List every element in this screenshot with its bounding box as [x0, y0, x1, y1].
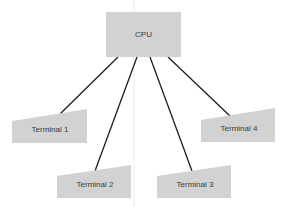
terminal-1-node: Terminal 1	[12, 109, 87, 143]
terminal-4-node: Terminal 4	[201, 108, 275, 142]
terminal-1-label: Terminal 1	[32, 125, 69, 134]
terminal-3-label: Terminal 3	[177, 180, 214, 189]
network-diagram: CPU Terminal 1 Terminal 2 Terminal 3 Ter…	[0, 0, 287, 207]
cpu-node: CPU	[106, 12, 181, 57]
line-cpu-terminal-1	[60, 57, 118, 114]
cpu-label: CPU	[135, 30, 152, 39]
terminal-4-label: Terminal 4	[221, 124, 258, 133]
terminal-2-node: Terminal 2	[57, 165, 131, 198]
line-cpu-terminal-4	[168, 57, 230, 116]
terminal-2-label: Terminal 2	[77, 180, 114, 189]
terminal-3-node: Terminal 3	[157, 165, 231, 198]
